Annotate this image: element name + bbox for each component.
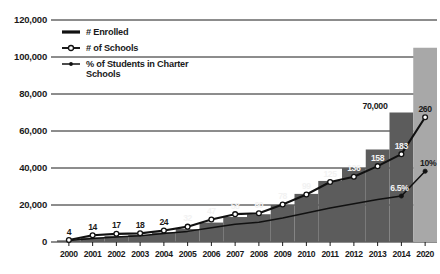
legend-marker-percent-dot — [69, 62, 73, 66]
schools-point-label: 4 — [67, 227, 72, 237]
schools-data-point — [138, 231, 143, 236]
bar — [295, 194, 319, 242]
bar — [271, 205, 295, 242]
schools-data-point — [114, 231, 119, 236]
schools-point-label: 260 — [418, 104, 432, 114]
schools-point-label: 17 — [112, 220, 121, 230]
percent-data-point — [423, 169, 427, 173]
schools-data-point — [304, 192, 309, 197]
y-axis-tick-label: 60,000 — [19, 125, 47, 136]
bar — [200, 223, 224, 242]
x-axis-tick-label: 2006 — [202, 249, 220, 259]
schools-data-point — [233, 212, 238, 217]
schools-point-label: 24 — [159, 217, 168, 227]
x-axis-tick-label: 2009 — [274, 249, 292, 259]
chart-container: 70,000 414171824324758607899125136158183… — [0, 0, 440, 274]
x-axis-tick-label: 2002 — [107, 249, 125, 259]
x-axis-tick-label: 2004 — [155, 249, 173, 259]
percent-data-point — [399, 194, 403, 198]
y-axis-tick-label: 20,000 — [19, 199, 47, 210]
schools-data-point — [375, 164, 380, 169]
y-axis-tick-label: 40,000 — [19, 162, 47, 173]
schools-point-label: 99 — [302, 181, 311, 191]
schools-data-point — [256, 211, 261, 216]
schools-data-point — [399, 152, 404, 157]
x-axis-tick-label: 2001 — [84, 249, 102, 259]
chart-legend: # Enrolled# of Schools% of Students in C… — [62, 27, 189, 79]
x-axis-tick-label: 2013 — [369, 249, 387, 259]
schools-data-point — [66, 238, 71, 243]
bar — [247, 214, 271, 242]
schools-data-point — [280, 202, 285, 207]
schools-data-point — [423, 115, 428, 120]
schools-point-label: 136 — [347, 163, 361, 173]
schools-point-label: 183 — [395, 141, 409, 151]
schools-point-label: 78 — [278, 191, 287, 201]
x-axis-tick-label: 2020 — [416, 249, 434, 259]
x-axis-tick-labels: 2000200120022003200420052006200720082009… — [60, 242, 435, 259]
x-axis-tick-label: 2010 — [297, 249, 315, 259]
legend-label-line2: Schools — [86, 69, 120, 79]
x-axis-tick-label: 2005 — [179, 249, 197, 259]
legend-label: % of Students in Charter — [86, 59, 189, 69]
bar — [223, 217, 247, 242]
bar-value-labels: 70,000 — [362, 101, 388, 111]
schools-data-point — [161, 228, 166, 233]
y-axis-tick-label: 100,000 — [14, 51, 47, 62]
bar-projected — [413, 48, 437, 242]
bar-value-label: 70,000 — [362, 101, 388, 111]
schools-point-label: 32 — [183, 213, 192, 223]
legend-label: # Enrolled — [86, 27, 128, 37]
chart-canvas: 70,000 414171824324758607899125136158183… — [0, 0, 440, 274]
percent-point-label: 6.5% — [390, 183, 409, 193]
x-axis-tick-label: 2000 — [60, 249, 78, 259]
legend-label: # of Schools — [86, 43, 138, 53]
schools-data-point — [90, 233, 95, 238]
schools-point-label: 47 — [207, 206, 216, 216]
schools-point-label: 60 — [254, 200, 263, 210]
bar — [318, 181, 342, 242]
schools-point-label: 125 — [323, 169, 337, 179]
percent-point-label: 10% — [420, 158, 437, 168]
schools-point-label: 58 — [231, 201, 240, 211]
y-axis-tick-labels: 020,00040,00060,00080,000100,000120,000 — [14, 14, 47, 247]
x-axis-tick-label: 2011 — [321, 249, 339, 259]
x-axis-tick-label: 2014 — [392, 249, 410, 259]
schools-data-point — [209, 217, 214, 222]
schools-point-label: 18 — [136, 220, 145, 230]
y-axis-tick-label: 0 — [42, 236, 47, 247]
x-axis-tick-label: 2007 — [226, 249, 244, 259]
schools-data-point — [328, 180, 333, 185]
x-axis-tick-label: 2008 — [250, 249, 268, 259]
x-axis-tick-label: 2003 — [131, 249, 149, 259]
schools-data-point — [351, 174, 356, 179]
schools-data-point — [185, 224, 190, 229]
y-axis-tick-label: 80,000 — [19, 88, 47, 99]
legend-marker-schools-circle — [69, 46, 74, 51]
y-axis-tick-label: 120,000 — [14, 14, 47, 25]
bar — [390, 113, 414, 243]
schools-point-label: 14 — [88, 222, 97, 232]
x-axis-tick-label: 2012 — [345, 249, 363, 259]
schools-point-label: 158 — [371, 153, 385, 163]
